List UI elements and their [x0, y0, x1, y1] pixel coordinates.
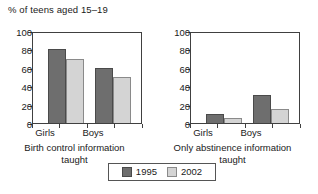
- bar-1995-boys: [95, 68, 113, 123]
- plot-area-right: [190, 32, 300, 124]
- y-tick-label: 40: [164, 83, 190, 92]
- bar-group-girls: [42, 33, 90, 123]
- plot-area-left: [32, 32, 142, 124]
- y-tick-label: 60: [164, 64, 190, 73]
- panel-caption-line1: Only abstinence information: [160, 142, 305, 154]
- bar-group-girls: [200, 33, 248, 123]
- bar-chart-figure: % of teens aged 15–19 100 80 60 40 20 0: [0, 0, 318, 194]
- legend-swatch-icon: [167, 167, 177, 177]
- y-tick-label: 80: [164, 46, 190, 55]
- bar-2002-girls: [224, 118, 242, 123]
- bar-2002-boys: [271, 109, 289, 123]
- legend-entry-2002: 2002: [167, 167, 202, 177]
- bar-1995-boys: [253, 95, 271, 123]
- y-axis-right: 100 80 60 40 20 0: [160, 32, 190, 124]
- legend-entry-1995: 1995: [122, 167, 157, 177]
- y-tick-label: 100: [164, 28, 190, 37]
- panel-caption-left: Birth control information taught: [2, 142, 147, 165]
- chart-panel-abstinence: 100 80 60 40 20 0 Girls B: [160, 28, 305, 160]
- y-tick-label: 60: [6, 64, 32, 73]
- chart-title: % of teens aged 15–19: [8, 4, 108, 16]
- legend-swatch-icon: [122, 167, 132, 177]
- legend-label: 1995: [136, 167, 157, 177]
- chart-legend: 1995 2002: [108, 163, 216, 181]
- y-tick-label: 40: [6, 83, 32, 92]
- x-category-label-boys: Boys: [63, 127, 123, 139]
- y-tick-label: 80: [6, 46, 32, 55]
- x-category-label-boys: Boys: [221, 127, 281, 139]
- y-tick-label: 20: [164, 101, 190, 110]
- y-tick-label: 20: [6, 101, 32, 110]
- chart-panel-birth-control: 100 80 60 40 20 0 Girls B: [2, 28, 147, 160]
- y-tick-label: 100: [6, 28, 32, 37]
- bar-group-boys: [89, 33, 137, 123]
- bar-1995-girls: [206, 114, 224, 123]
- bar-group-boys: [247, 33, 295, 123]
- bar-2002-girls: [66, 59, 84, 123]
- panel-caption-right: Only abstinence information taught: [160, 142, 305, 165]
- panel-caption-line1: Birth control information: [2, 142, 147, 154]
- bar-1995-girls: [48, 49, 66, 123]
- legend-label: 2002: [181, 167, 202, 177]
- y-axis-left: 100 80 60 40 20 0: [2, 32, 32, 124]
- bar-2002-boys: [113, 77, 131, 123]
